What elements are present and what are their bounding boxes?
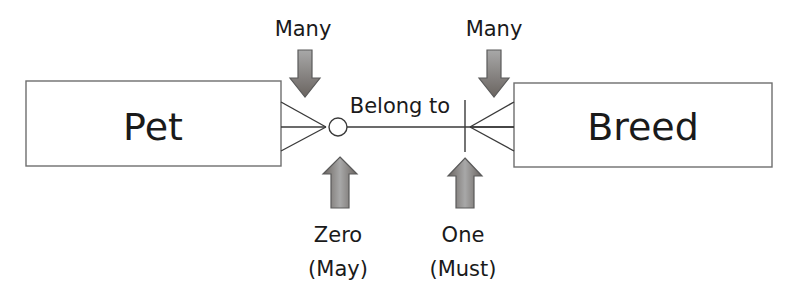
breed-side-many-label: Many xyxy=(466,17,523,41)
er-diagram: Pet Breed Belong to Many Many Zero (May)… xyxy=(0,0,796,298)
zero-label: Zero xyxy=(314,223,362,247)
entity-pet: Pet xyxy=(26,81,281,166)
relationship-label: Belong to xyxy=(350,94,450,118)
zero-may-label: (May) xyxy=(308,257,368,281)
crows-foot-pet-side-icon xyxy=(281,102,326,151)
pet-side-many-label: Many xyxy=(275,17,332,41)
one-must-label: (Must) xyxy=(430,257,497,281)
entity-pet-label: Pet xyxy=(123,105,183,149)
entity-breed-label: Breed xyxy=(587,105,699,149)
zero-optional-circle-icon xyxy=(329,118,347,136)
pet-side-many-arrow-down-icon xyxy=(290,50,320,97)
zero-arrow-up-icon xyxy=(323,157,357,208)
entity-breed: Breed xyxy=(514,83,772,167)
breed-side-many-arrow-down-icon xyxy=(479,50,509,97)
crows-foot-breed-side-icon xyxy=(470,102,514,151)
one-arrow-up-icon xyxy=(448,158,482,208)
one-label: One xyxy=(442,223,485,247)
